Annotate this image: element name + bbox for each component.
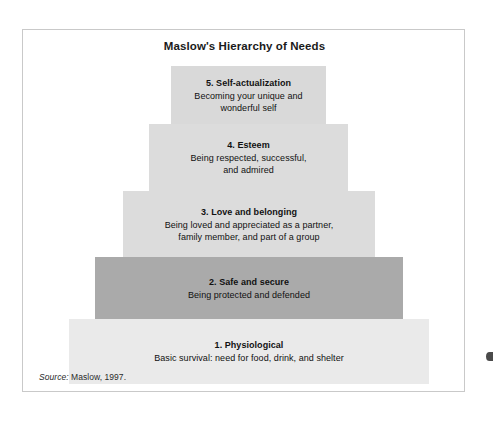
page-edge-artifact <box>486 352 493 361</box>
tier-label: 5. Self-actualization <box>206 77 291 89</box>
tier-label: 1. Physiological <box>215 339 284 351</box>
source-citation: Maslow, 1997. <box>69 372 126 382</box>
tier-label: 3. Love and belonging <box>201 206 297 218</box>
tier-label: 2. Safe and secure <box>209 276 289 288</box>
tier-description: Being respected, successful, and admired <box>191 152 307 176</box>
tier-description: Being loved and appreciated as a partner… <box>165 219 334 243</box>
tier-description: Becoming your unique and wonderful self <box>194 90 302 114</box>
pyramid-tier-self-actualization: 5. Self-actualization Becoming your uniq… <box>171 66 326 124</box>
pyramid-tier-esteem: 4. Esteem Being respected, successful, a… <box>149 124 348 191</box>
tier-description: Basic survival: need for food, drink, an… <box>154 352 344 364</box>
maslow-pyramid: 5. Self-actualization Becoming your uniq… <box>23 30 466 393</box>
figure-root: Maslow's Hierarchy of Needs 5. Self-actu… <box>0 0 494 428</box>
tier-description: Being protected and defended <box>188 289 310 301</box>
source-label: Source: <box>39 372 69 382</box>
pyramid-tier-love-and-belonging: 3. Love and belonging Being loved and ap… <box>123 191 375 257</box>
source-note: Source: Maslow, 1997. <box>39 372 126 382</box>
figure-frame: Maslow's Hierarchy of Needs 5. Self-actu… <box>22 29 465 392</box>
pyramid-tier-safe-and-secure: 2. Safe and secure Being protected and d… <box>95 257 403 319</box>
tier-label: 4. Esteem <box>227 139 269 151</box>
